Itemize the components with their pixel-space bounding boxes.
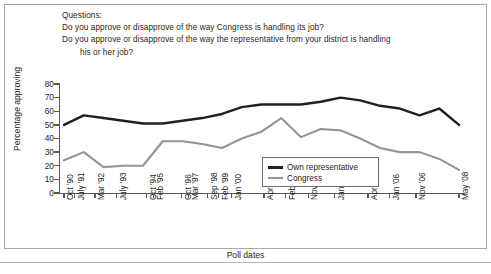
x-axis-title: Poll dates	[0, 250, 491, 260]
x-axis-tick	[153, 193, 154, 198]
x-axis-tick	[74, 193, 75, 198]
x-axis-tick	[207, 193, 208, 198]
x-axis-tick	[389, 193, 390, 198]
x-axis-tick	[308, 193, 309, 198]
y-axis-tick	[54, 179, 59, 180]
x-axis-tick	[415, 193, 416, 198]
y-axis-tick	[54, 138, 59, 139]
legend-item-congress: Congress	[268, 173, 378, 184]
figure-container: Questions: Do you approve or disapprove …	[0, 0, 491, 274]
chart-legend: Own representative Congress	[262, 157, 379, 187]
question-line-3: his or her job?	[62, 47, 462, 59]
x-axis-tick	[116, 193, 117, 198]
y-axis-title: Percentage approving	[12, 54, 22, 164]
y-axis-tick	[54, 165, 59, 166]
x-axis-tick	[146, 193, 147, 198]
series-line-own-representative	[64, 98, 459, 125]
bottom-divider	[0, 262, 491, 263]
x-axis-tick	[231, 193, 232, 198]
legend-item-own-representative: Own representative	[268, 162, 378, 173]
y-axis-tick	[54, 192, 59, 193]
question-line-2: Do you approve or disapprove of the way …	[62, 34, 462, 46]
x-axis-tick	[94, 193, 95, 198]
x-axis-tick	[285, 193, 286, 198]
y-axis-tick	[54, 83, 59, 84]
y-axis-tick-label: 10	[12, 175, 54, 183]
x-axis-tick	[367, 193, 368, 198]
legend-label-congress: Congress	[287, 174, 322, 183]
y-axis-labels: 01020304050607080	[0, 0, 54, 274]
legend-swatch-own-representative	[268, 166, 283, 169]
x-axis-tick	[334, 193, 335, 198]
questions-heading: Questions:	[62, 10, 462, 22]
y-axis-tick-label: 0	[12, 189, 54, 197]
x-axis-tick	[188, 193, 189, 198]
x-axis-tick	[63, 193, 64, 198]
x-axis-tick	[263, 193, 264, 198]
x-axis-tick	[181, 193, 182, 198]
legend-swatch-congress	[268, 177, 283, 180]
legend-label-own-representative: Own representative	[287, 163, 358, 172]
y-axis-tick	[54, 124, 59, 125]
questions-block: Questions: Do you approve or disapprove …	[62, 10, 462, 59]
x-axis-tick	[458, 193, 459, 198]
x-axis-tick	[218, 193, 219, 198]
y-axis-tick	[54, 111, 59, 112]
y-axis-tick	[54, 151, 59, 152]
y-axis-tick	[54, 97, 59, 98]
question-line-1: Do you approve or disapprove of the way …	[62, 22, 462, 34]
